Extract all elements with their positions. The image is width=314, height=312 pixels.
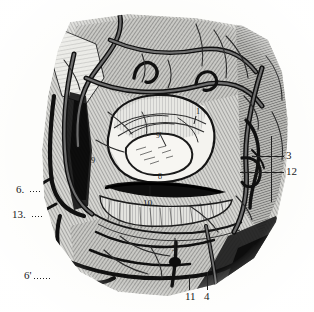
label-12: 12 [286,166,297,177]
label-1: 1 [196,106,200,117]
leader-line-3 [252,156,284,157]
label-13: 13. [12,209,26,220]
label-4: 4 [204,291,210,302]
leader-line-4 [207,272,208,290]
label-6: 6. [16,184,24,195]
label-8: 8 [158,171,162,182]
label-9: 9 [91,155,95,166]
label-6-prime: 6' [24,270,31,281]
label-11: 11 [185,291,196,302]
leader-guide-right [271,136,272,202]
label-3: 3 [286,150,292,161]
label-5: 5 [172,243,176,254]
leader-line-13 [32,216,42,217]
leader-line-6-prime [34,278,50,279]
leader-line-11 [189,276,190,290]
leader-line-12 [240,172,284,173]
anatomical-plate: 3 12 6. 13. 6' 11 4 1 9 9' 8 10 5 [0,0,314,312]
label-10: 10 [143,198,152,209]
leader-line-6 [30,191,40,192]
label-9-prime: 9' [156,130,161,141]
